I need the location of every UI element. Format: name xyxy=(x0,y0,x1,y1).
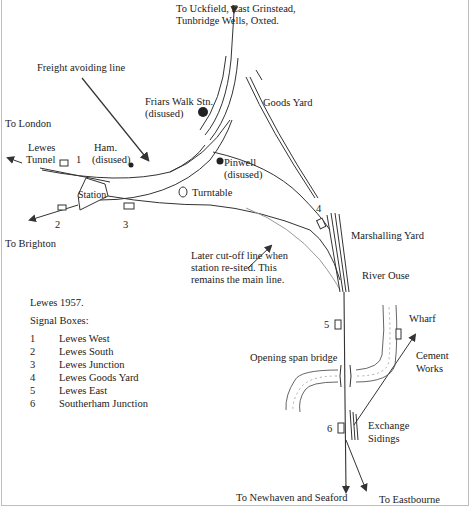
label-to-uckfield-2: Tunbridge Wells, Oxted. xyxy=(176,15,279,27)
label-to-brighton: To Brighton xyxy=(5,238,56,250)
key-row: 3Lewes Junction xyxy=(30,358,148,371)
label-ham-status: (disused) xyxy=(92,154,131,166)
signal-box-key: Lewes 1957. Signal Boxes: 1Lewes West 2L… xyxy=(30,296,148,410)
label-lewes-tunnel: Lewes xyxy=(28,142,55,154)
box-num-4: 4 xyxy=(316,203,321,215)
signal-box-3 xyxy=(124,203,134,209)
label-opening-bridge: Opening span bridge xyxy=(250,352,337,364)
wharf-box xyxy=(396,329,401,339)
key-row: 1Lewes West xyxy=(30,332,148,345)
key-subtitle: Signal Boxes: xyxy=(30,314,148,327)
label-friars-walk: Friars Walk Stn. xyxy=(145,96,213,108)
signal-box-2 xyxy=(58,205,66,210)
pinwell-marker xyxy=(217,158,224,165)
label-exchange-2: Sidings xyxy=(368,433,400,445)
label-wharf: Wharf xyxy=(409,313,436,325)
label-to-london: To London xyxy=(5,118,51,130)
label-station: Station xyxy=(78,189,106,201)
key-title: Lewes 1957. xyxy=(30,296,148,309)
label-exchange: Exchange xyxy=(368,420,409,432)
turntable-marker xyxy=(179,187,187,197)
label-lewes-tunnel-2: Tunnel xyxy=(26,154,55,166)
label-cement: Cement xyxy=(416,350,449,362)
label-later-cutoff-3: remains the main line. xyxy=(191,274,284,286)
signal-box-1 xyxy=(60,160,68,166)
label-pinwell-status: (disused) xyxy=(224,169,263,181)
label-river-ouse: River Ouse xyxy=(362,270,410,282)
signal-box-5 xyxy=(335,320,341,329)
box-num-3: 3 xyxy=(123,219,128,231)
box-num-2: 2 xyxy=(55,219,60,231)
label-friars-walk-status: (disused) xyxy=(145,108,184,120)
signal-box-4 xyxy=(317,218,326,229)
key-row: 2Lewes South xyxy=(30,345,148,358)
label-to-eastbourne: To Eastbourne xyxy=(379,494,440,506)
key-row: 4Lewes Goods Yard xyxy=(30,371,148,384)
box-num-6: 6 xyxy=(327,423,332,435)
box-num-5: 5 xyxy=(324,319,329,331)
label-turntable: Turntable xyxy=(192,187,232,199)
label-later-cutoff-1: Later cut-off line when xyxy=(191,250,288,262)
label-to-uckfield: To Uckfield, East Grinstead, xyxy=(176,3,296,15)
box-num-1: 1 xyxy=(76,154,81,166)
signal-box-6 xyxy=(338,423,344,433)
label-to-newhaven: To Newhaven and Seaford xyxy=(236,492,348,504)
label-ham: Ham. xyxy=(94,142,117,154)
label-freight-avoiding: Freight avoiding line xyxy=(37,62,125,74)
label-pinwell: Pinwell xyxy=(224,157,256,169)
label-later-cutoff-2: station re-sited. This xyxy=(191,262,277,274)
friars-walk-marker xyxy=(198,107,208,117)
label-cement-2: Works xyxy=(416,363,443,375)
key-row: 5Lewes East xyxy=(30,384,148,397)
key-row: 6Southerham Junction xyxy=(30,397,148,410)
label-goods-yard: Goods Yard xyxy=(263,97,313,109)
label-marshalling-yard: Marshalling Yard xyxy=(351,230,424,242)
